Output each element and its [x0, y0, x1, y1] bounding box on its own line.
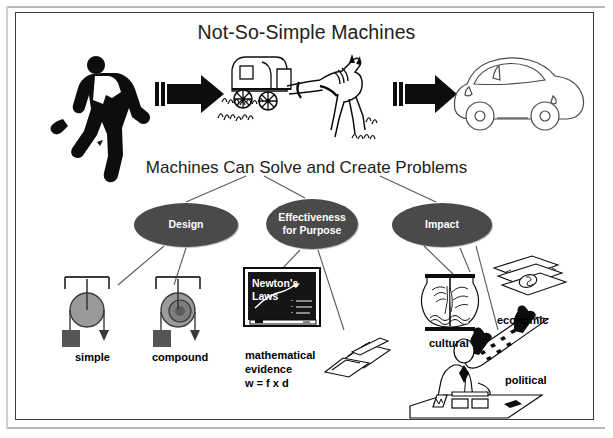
leaf-label-cultural: cultural	[429, 337, 469, 351]
leaf-label-political: political	[505, 374, 547, 388]
outer-rule-bottom	[8, 427, 605, 429]
leaf-label-mathematical-evidence: mathematical evidence w = f x d	[245, 349, 315, 390]
concept-node-impact[interactable]: Impact	[392, 203, 492, 247]
blackboard-text: Newton'sLaws	[252, 277, 298, 302]
outer-rule-top	[8, 6, 605, 8]
blackboard-line-1: Newton's	[252, 277, 298, 289]
concept-node-design-label: Design	[168, 218, 203, 231]
page-subtitle: Machines Can Solve and Create Problems	[0, 158, 613, 178]
leaf-label-compound: compound	[152, 351, 208, 365]
outer-rule-left	[6, 6, 8, 429]
poster-canvas: Not-So-Simple Machines Machines Can Solv…	[0, 0, 613, 438]
page-title: Not-So-Simple Machines	[0, 21, 613, 44]
concept-node-design[interactable]: Design	[134, 203, 238, 247]
concept-node-impact-label: Impact	[425, 218, 459, 231]
concept-node-effectiveness[interactable]: Effectiveness for Purpose	[266, 199, 358, 249]
blackboard-line-2: Laws	[252, 290, 278, 302]
concept-node-effectiveness-label: Effectiveness for Purpose	[278, 211, 346, 237]
leaf-label-simple: simple	[75, 351, 110, 365]
leaf-label-economic: economic	[497, 314, 548, 328]
